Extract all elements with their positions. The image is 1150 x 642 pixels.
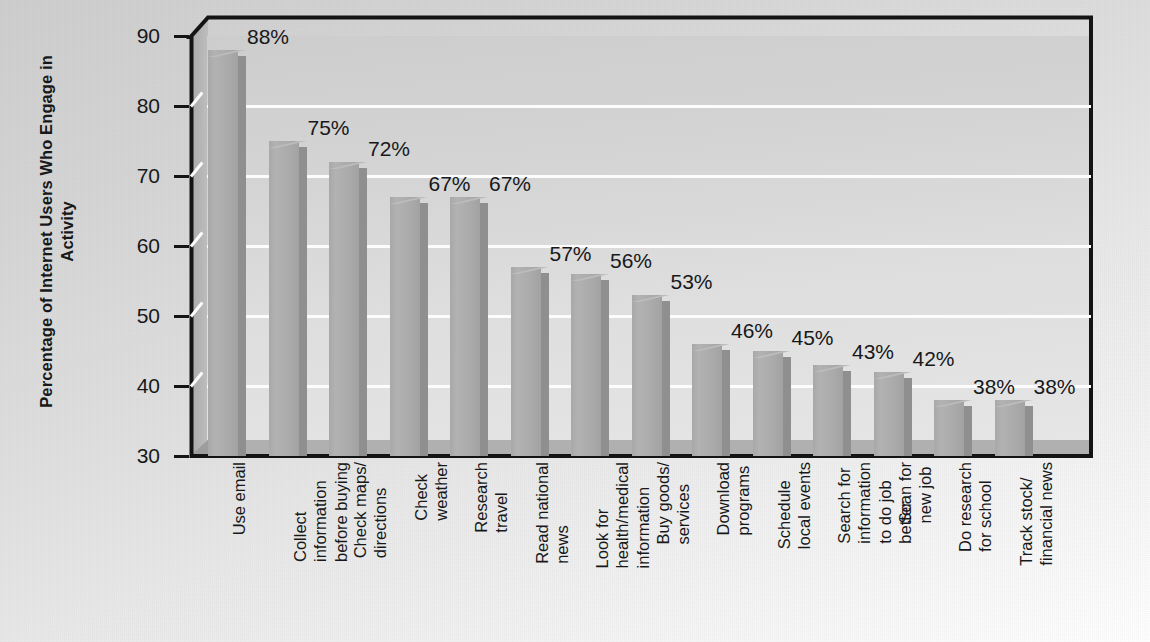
bar-side-face (420, 203, 428, 456)
bar-front-face (329, 162, 359, 456)
bar-side-face (238, 56, 246, 456)
bar[interactable] (269, 141, 307, 456)
bar-front-face (390, 197, 420, 456)
bar-value-label: 53% (671, 271, 713, 292)
x-axis-label-line: directions (370, 462, 390, 558)
x-axis-label-line: travel (491, 462, 511, 533)
x-axis-label-line: Track stock/ (1016, 462, 1036, 566)
x-axis-label-line: local events (794, 462, 814, 549)
bar[interactable] (511, 267, 549, 456)
gridline (207, 105, 1091, 108)
bar-front-face (571, 274, 601, 456)
x-axis-label-line: services (673, 462, 693, 545)
bar[interactable] (390, 197, 428, 456)
x-axis-label-line: information (854, 462, 874, 544)
y-tick-label: 60 (106, 235, 160, 256)
bar[interactable] (571, 274, 609, 456)
x-axis-label-line: Download (713, 462, 733, 535)
x-axis-label-line: to do job (875, 462, 895, 544)
y-tick-label: 80 (106, 95, 160, 116)
x-axis-label-line: programs (733, 462, 753, 535)
bar-side-face (541, 273, 549, 456)
bar[interactable] (329, 162, 367, 456)
bar-side-face (904, 378, 912, 456)
x-axis-label-line: Scan for (895, 462, 915, 523)
bar-value-label: 45% (792, 327, 834, 348)
y-tick-mark (174, 455, 189, 458)
bar-front-face (692, 344, 722, 456)
bar[interactable] (874, 372, 912, 456)
x-axis-label-line: Look for (592, 462, 612, 568)
x-axis-label: Use email (229, 462, 249, 535)
x-axis-label-line: financial news (1036, 462, 1056, 566)
bar-value-label: 42% (913, 348, 955, 369)
bar-value-label: 38% (1034, 376, 1076, 397)
y-tick-label: 40 (106, 375, 160, 396)
y-tick-label: 90 (106, 25, 160, 46)
bar-side-face (299, 147, 307, 456)
y-tick-mark (174, 385, 189, 388)
bar-value-label: 67% (489, 173, 531, 194)
y-tick-mark (174, 245, 189, 248)
plot-area: 88%75%72%67%67%57%56%53%46%45%43%42%38%3… (190, 15, 1093, 458)
bar[interactable] (692, 344, 730, 456)
bar[interactable] (632, 295, 670, 456)
y-tick-label: 30 (106, 445, 160, 466)
x-axis-label-line: Check (411, 462, 431, 521)
x-axis-label-line: Research (471, 462, 491, 533)
x-axis-label-line: Schedule (774, 462, 794, 549)
x-axis-label: Downloadprograms (713, 462, 754, 535)
x-axis-label: Buy goods/services (653, 462, 694, 545)
bar-value-label: 72% (368, 138, 410, 159)
bar-front-face (813, 365, 843, 456)
y-tick-mark (174, 105, 189, 108)
bar-front-face (208, 50, 238, 456)
y-axis-title: Percentage of Internet Users Who Engage … (36, 51, 79, 411)
bar-value-label: 57% (550, 243, 592, 264)
x-axis-label-line: Use email (229, 462, 249, 535)
bar-side-face (1025, 406, 1033, 456)
y-tick-label: 50 (106, 305, 160, 326)
x-axis-label: Scan fornew job (895, 462, 936, 523)
bar-value-label: 46% (731, 320, 773, 341)
bar[interactable] (934, 400, 972, 456)
x-axis-labels: Use emailCollectinformationbefore buying… (190, 462, 1093, 642)
x-axis-label: Collectinformationbefore buying (290, 462, 351, 562)
bar-value-label: 56% (610, 250, 652, 271)
x-axis-label-line: for school (975, 462, 995, 552)
bar-side-face (964, 406, 972, 456)
bar[interactable] (813, 365, 851, 456)
x-axis-label: Checkweather (411, 462, 452, 521)
bar-side-face (662, 301, 670, 456)
bar-side-face (783, 357, 791, 456)
bar[interactable] (753, 351, 791, 456)
x-axis-label-line: Search for (834, 462, 854, 544)
bar[interactable] (450, 197, 488, 456)
bar-value-label: 88% (247, 26, 289, 47)
bar-front-face (450, 197, 480, 456)
bar-value-label: 43% (852, 341, 894, 362)
bar-side-face (601, 280, 609, 456)
x-axis-label: Schedulelocal events (774, 462, 815, 549)
bar-front-face (874, 372, 904, 456)
bar-front-face (632, 295, 662, 456)
y-tick-label: 70 (106, 165, 160, 186)
x-axis-label-line: news (552, 462, 572, 564)
x-axis-label: Do researchfor school (955, 462, 996, 552)
bar-side-face (722, 350, 730, 456)
bar[interactable] (208, 50, 246, 456)
y-tick-mark (174, 35, 189, 38)
bar-front-face (753, 351, 783, 456)
bar-side-face (480, 203, 488, 456)
x-axis-label-line: Do research (955, 462, 975, 552)
x-axis-label-line: information (633, 462, 653, 568)
x-axis-label-line: Buy goods/ (653, 462, 673, 545)
bar-side-face (359, 168, 367, 456)
bar-front-face (511, 267, 541, 456)
bar[interactable] (995, 400, 1033, 456)
x-axis-label: Researchtravel (471, 462, 512, 533)
x-axis-label: Look forhealth/medicalinformation (592, 462, 653, 568)
x-axis-label-line: before buying (330, 462, 350, 562)
x-axis-label-line: new job (915, 462, 935, 523)
x-axis-label: Read nationalnews (532, 462, 573, 564)
